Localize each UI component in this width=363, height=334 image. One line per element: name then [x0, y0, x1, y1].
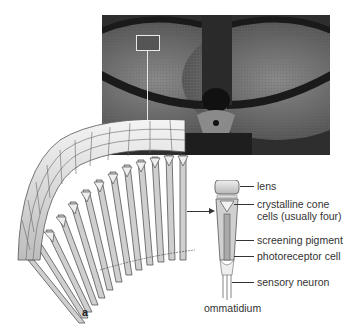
label-crystalline-cone: crystalline cone	[257, 198, 329, 210]
label-lens: lens	[257, 180, 276, 192]
ommatidium-caption: ommatidium	[204, 302, 261, 314]
label-photoreceptor-cell: photoreceptor cell	[257, 250, 340, 262]
pointer-arrow-line	[187, 211, 209, 212]
highlight-box	[136, 35, 160, 51]
label-sensory-neuron: sensory neuron	[257, 276, 329, 288]
label-cone-cells: cells (usually four)	[257, 210, 342, 222]
ommatidia-array-diagram	[0, 120, 200, 330]
leader-neuron	[232, 282, 254, 283]
panel-label: a	[82, 306, 88, 318]
leader-photoreceptor	[234, 256, 254, 257]
leader-cone	[234, 204, 254, 205]
label-screening-pigment: screening pigment	[257, 234, 343, 246]
leader-pigment	[236, 240, 254, 241]
highlight-leader-line	[147, 50, 148, 130]
leader-lens	[240, 186, 254, 187]
